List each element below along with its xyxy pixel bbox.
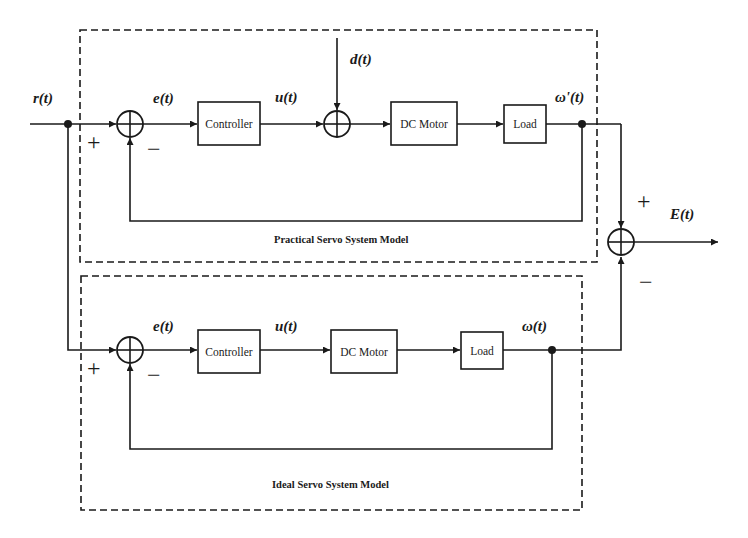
summing-junction-1 bbox=[117, 111, 143, 137]
ideal-model-boundary bbox=[81, 276, 582, 510]
summing-junction-ideal bbox=[117, 337, 143, 363]
load-label-ideal: Load bbox=[461, 332, 503, 369]
wire-reference-to-sum4 bbox=[68, 124, 116, 350]
signal-label-output-ideal: ω(t) bbox=[522, 318, 547, 335]
signal-label-disturbance: d(t) bbox=[350, 51, 372, 68]
dc-motor-label-practical: DC Motor bbox=[391, 102, 457, 145]
controller-label-ideal: Controller bbox=[198, 330, 260, 373]
minus-sign-comparison: − bbox=[639, 270, 653, 294]
wire-ideal-to-sum3 bbox=[503, 257, 621, 350]
dc-motor-label-ideal: DC Motor bbox=[331, 330, 397, 373]
signal-label-error-ideal: e(t) bbox=[153, 318, 174, 335]
minus-sign-ideal: − bbox=[147, 363, 161, 387]
signal-label-control-practical: u(t) bbox=[275, 89, 298, 106]
plus-sign-comparison: + bbox=[637, 189, 651, 213]
summing-junction-comparison bbox=[608, 229, 634, 255]
signal-label-difference: E(t) bbox=[670, 206, 694, 223]
ideal-model-caption: Ideal Servo System Model bbox=[272, 479, 389, 490]
minus-sign-sum1: − bbox=[147, 137, 161, 161]
block-diagram-canvas bbox=[0, 0, 748, 538]
signal-label-control-ideal: u(t) bbox=[275, 318, 298, 335]
summing-junction-disturbance bbox=[324, 111, 350, 137]
plus-sign-ideal: + bbox=[87, 356, 101, 380]
controller-label-practical: Controller bbox=[198, 102, 260, 145]
signal-label-error-practical: e(t) bbox=[153, 90, 174, 107]
branch-node-ideal-output bbox=[548, 346, 556, 354]
practical-model-caption: Practical Servo System Model bbox=[274, 234, 408, 245]
signal-label-reference: r(t) bbox=[33, 90, 53, 107]
load-label-practical: Load bbox=[504, 105, 546, 143]
plus-sign-sum1: + bbox=[87, 130, 101, 154]
signal-label-output-practical: ω'(t) bbox=[555, 89, 584, 106]
branch-node-practical-output bbox=[578, 120, 586, 128]
